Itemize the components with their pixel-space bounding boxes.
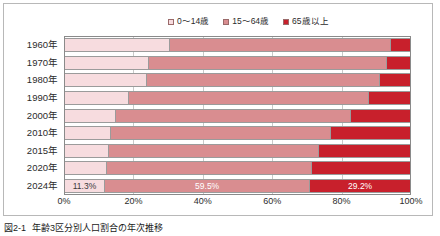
legend-swatch-icon [168, 19, 174, 25]
bar-segment[interactable] [350, 110, 410, 122]
bar-segment[interactable] [148, 57, 386, 69]
bar-segment[interactable] [65, 92, 128, 104]
bar-rows: 11.3%59.5%29.2% [64, 36, 411, 195]
legend-label: 0〜14歳 [177, 17, 209, 26]
y-axis-category-labels: 1960年1970年1980年1990年2000年2010年2015年2020年… [4, 36, 62, 195]
y-axis-label-1: 1970年 [4, 56, 62, 70]
y-axis-label-6: 2015年 [4, 144, 62, 158]
y-axis-label-5: 2010年 [4, 126, 62, 140]
figure-caption: 図2-1年齢3区分別人口割合の年次推移 [4, 221, 163, 234]
y-axis-label-2: 1980年 [4, 73, 62, 87]
y-axis-label-7: 2020年 [4, 161, 62, 175]
bar-segment[interactable] [65, 127, 110, 139]
x-axis-tick-5: 100% [399, 196, 422, 206]
bar-row[interactable] [64, 126, 411, 140]
bar-segment[interactable] [311, 162, 410, 174]
bar-segment[interactable] [110, 127, 330, 139]
bar-row[interactable] [64, 73, 411, 87]
x-axis-tick-0: 0% [57, 196, 70, 206]
chart-legend: 0〜14歳15〜64歳65歳以上 [168, 17, 329, 26]
bar-segment[interactable]: 59.5% [104, 180, 309, 192]
bar-segment[interactable] [146, 74, 379, 86]
bar-segment[interactable] [169, 39, 390, 51]
bar-segment[interactable] [65, 74, 146, 86]
bar-segment[interactable] [128, 92, 368, 104]
bar-segment[interactable] [65, 110, 115, 122]
bar-row[interactable] [64, 161, 411, 175]
caption-number: 図2-1 [4, 223, 26, 233]
bar-row[interactable] [64, 109, 411, 123]
bar-segment[interactable] [65, 145, 108, 157]
bar-segment[interactable] [108, 145, 317, 157]
bar-row[interactable] [64, 56, 411, 70]
x-axis-tick-2: 40% [194, 196, 212, 206]
bar-segment[interactable] [368, 92, 410, 104]
legend-label: 65歳以上 [292, 17, 328, 26]
x-axis-tick-4: 80% [333, 196, 351, 206]
legend-label: 15〜64歳 [232, 17, 269, 26]
caption-text: 年齢3区分別人口割合の年次推移 [32, 223, 163, 233]
bar-segment[interactable] [65, 39, 169, 51]
plot-area: 11.3%59.5%29.2% [64, 36, 411, 195]
bar-segment[interactable] [65, 162, 106, 174]
bar-segment[interactable] [386, 57, 410, 69]
legend-swatch-icon [283, 19, 289, 25]
bar-segment[interactable] [330, 127, 410, 139]
x-axis-tick-1: 20% [124, 196, 142, 206]
chart-figure: 0〜14歳15〜64歳65歳以上 1960年1970年1980年1990年200… [0, 0, 440, 236]
bar-segment[interactable] [318, 145, 410, 157]
bar-segment[interactable]: 29.2% [309, 180, 410, 192]
bar-row[interactable]: 11.3%59.5%29.2% [64, 179, 411, 193]
legend-item-0[interactable]: 0〜14歳 [168, 17, 209, 26]
x-axis-tick-labels: 0%20%40%60%80%100% [64, 196, 411, 210]
bar-row[interactable] [64, 38, 411, 52]
bar-segment[interactable] [390, 39, 410, 51]
bar-row[interactable] [64, 91, 411, 105]
y-axis-label-4: 2000年 [4, 109, 62, 123]
bar-row[interactable] [64, 144, 411, 158]
y-axis-label-3: 1990年 [4, 91, 62, 105]
y-axis-label-8: 2024年 [4, 179, 62, 193]
x-axis-tick-3: 60% [263, 196, 281, 206]
legend-item-1[interactable]: 15〜64歳 [223, 17, 269, 26]
legend-swatch-icon [223, 19, 229, 25]
bar-segment[interactable] [379, 74, 410, 86]
y-axis-label-0: 1960年 [4, 38, 62, 52]
bar-segment[interactable] [115, 110, 350, 122]
legend-item-2[interactable]: 65歳以上 [283, 17, 328, 26]
bar-segment[interactable] [106, 162, 311, 174]
bar-segment[interactable] [65, 57, 148, 69]
bar-segment[interactable]: 11.3% [65, 180, 104, 192]
